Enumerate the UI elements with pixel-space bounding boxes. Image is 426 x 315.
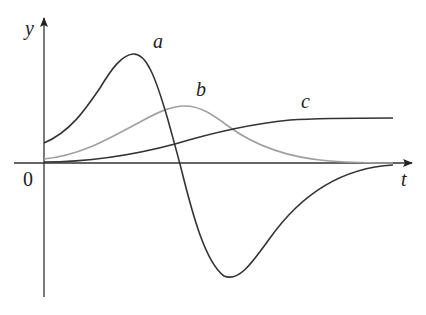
curve-c: [44, 118, 393, 162]
origin-label: 0: [23, 168, 33, 190]
curve-a-label: a: [153, 30, 163, 52]
t-axis-label: t: [401, 168, 407, 190]
curve-c-label: c: [301, 90, 310, 112]
chart: y t 0 a b c: [0, 0, 426, 315]
curve-b-label: b: [196, 78, 206, 100]
curve-b: [44, 106, 393, 163]
curve-a: [44, 54, 393, 277]
y-axis-label: y: [23, 17, 34, 40]
